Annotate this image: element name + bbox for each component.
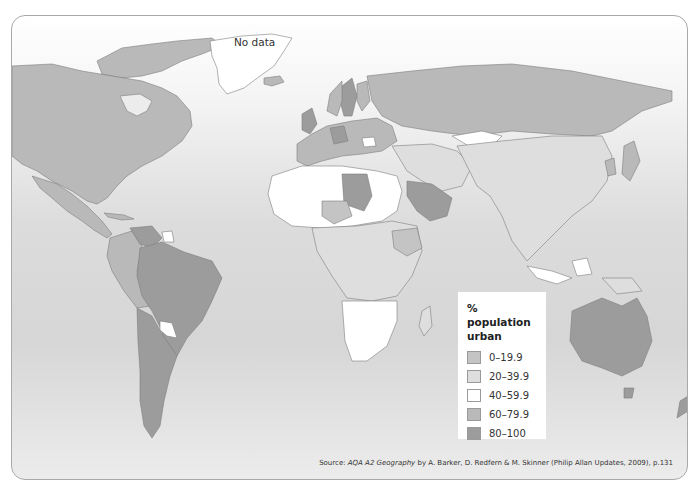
legend-item: 20–39.9 — [467, 367, 538, 386]
legend-title: % population urban — [467, 301, 538, 343]
legend-swatch — [467, 427, 481, 440]
region-japan — [622, 141, 640, 181]
legend-item: 40–59.9 — [467, 386, 538, 405]
legend-label: 60–79.9 — [489, 409, 529, 420]
map-frame: No data % population urban 0–19.9 20–39.… — [11, 15, 688, 480]
region-russia — [367, 64, 672, 136]
region-romania — [362, 137, 376, 147]
region-southern-africa — [342, 301, 397, 361]
legend-title-line2: urban — [467, 329, 538, 343]
legend-item: 0–19.9 — [467, 348, 538, 367]
region-uk — [302, 108, 317, 134]
region-tasmania — [624, 388, 634, 398]
region-guyana — [162, 231, 174, 242]
legend-swatch — [467, 370, 481, 383]
region-arctic-islands — [97, 38, 222, 78]
map-legend: % population urban 0–19.9 20–39.9 40–59.… — [458, 292, 546, 439]
legend-label: 20–39.9 — [489, 371, 529, 382]
legend-swatch — [467, 389, 481, 402]
region-papua — [602, 278, 642, 294]
source-book-title: AQA A2 Geography — [348, 459, 415, 467]
world-choropleth-map — [12, 16, 687, 479]
region-sweden — [340, 78, 357, 116]
source-details: by A. Barker, D. Redfern & M. Skinner (P… — [415, 459, 673, 467]
legend-item: 80–100 — [467, 424, 538, 443]
legend-label: 40–59.9 — [489, 390, 529, 401]
region-indonesia — [527, 258, 592, 284]
no-data-label: No data — [234, 36, 275, 48]
region-iceland — [264, 76, 284, 86]
legend-title-line1: % population — [467, 301, 538, 329]
source-prefix: Source: — [319, 459, 348, 467]
region-australia — [570, 298, 652, 376]
region-asia — [457, 136, 612, 261]
legend-swatch — [467, 351, 481, 364]
region-new-zealand — [677, 396, 687, 418]
legend-item: 60–79.9 — [467, 405, 538, 424]
region-madagascar — [419, 306, 432, 336]
legend-label: 0–19.9 — [489, 352, 523, 363]
region-caribbean — [104, 213, 134, 220]
legend-swatch — [467, 408, 481, 421]
legend-label: 80–100 — [489, 428, 526, 439]
source-caption: Source: AQA A2 Geography by A. Barker, D… — [319, 459, 673, 467]
